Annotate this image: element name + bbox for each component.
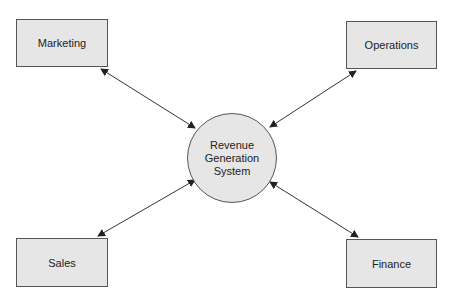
center-node-revenue-generation-system: Revenue Generation System	[187, 113, 277, 203]
node-marketing: Marketing	[16, 19, 108, 67]
center-node-label: Revenue Generation System	[205, 139, 259, 178]
arrow-operations-center	[270, 71, 356, 127]
node-label: Operations	[365, 39, 419, 51]
node-label: Marketing	[38, 37, 86, 49]
arrow-finance-center	[270, 182, 358, 237]
node-label: Finance	[372, 258, 411, 270]
node-sales: Sales	[16, 238, 108, 287]
arrow-marketing-center	[101, 69, 195, 128]
node-operations: Operations	[346, 21, 437, 69]
node-finance: Finance	[346, 239, 437, 288]
node-label: Sales	[48, 257, 76, 269]
arrow-sales-center	[98, 180, 195, 236]
